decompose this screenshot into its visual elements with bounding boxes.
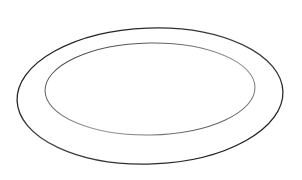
- platter-drawing: [0, 0, 302, 180]
- inner-well-ellipse: [44, 41, 256, 137]
- outer-rim-ellipse: [15, 23, 286, 168]
- platter-svg: [0, 0, 302, 180]
